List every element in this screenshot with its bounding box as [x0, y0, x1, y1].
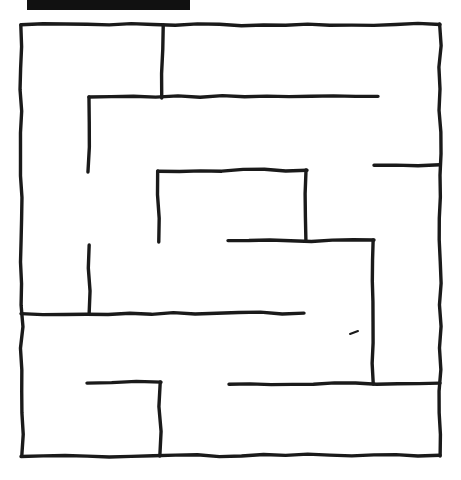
wall-upper-long-horizontal	[89, 96, 378, 98]
wall-center-box-top	[158, 169, 307, 171]
wall-bottom-vertical	[159, 382, 161, 456]
border-bottom	[21, 454, 440, 457]
wall-center-box-left	[158, 171, 160, 242]
maze-drawing	[0, 0, 461, 480]
border-right	[439, 24, 441, 456]
wall-center-box-right	[305, 170, 306, 241]
stray-tick-mark	[350, 331, 358, 334]
wall-right-stub-upper	[374, 165, 440, 166]
maze-stray-marks	[350, 331, 358, 334]
wall-right-big-vertical	[372, 240, 373, 384]
border-left	[20, 25, 23, 456]
wall-bottom-stub	[87, 381, 161, 383]
maze-walls	[21, 25, 440, 456]
page-canvas	[0, 0, 461, 480]
wall-lower-long-horizontal	[21, 312, 304, 314]
border-top	[21, 23, 440, 25]
wall-upper-left-vertical	[88, 97, 89, 172]
wall-top-vertical-divider	[162, 25, 164, 98]
wall-mid-horizontal	[228, 240, 374, 242]
wall-lower-left-vertical	[88, 245, 90, 314]
wall-bottom-right-horizontal	[229, 383, 440, 385]
